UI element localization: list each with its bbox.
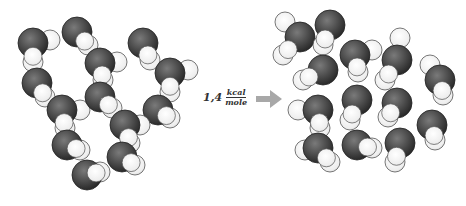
- hydrogen-atom: [317, 149, 335, 167]
- water-molecule: [340, 85, 372, 130]
- energy-unit: kcal mole: [225, 88, 247, 107]
- hydrogen-atom: [316, 30, 334, 48]
- hydrogen-atom: [93, 66, 111, 84]
- hydrogen-atom: [279, 41, 297, 59]
- water-molecule: [295, 133, 340, 172]
- hydrogen-atom: [67, 140, 85, 158]
- hydrogen-atom: [382, 104, 400, 122]
- water-molecule: [72, 160, 110, 190]
- transition-arrow: [256, 90, 282, 108]
- hydrogen-atom: [300, 68, 318, 86]
- hydrogen-atom: [87, 164, 105, 182]
- hydrogen-atom: [34, 84, 52, 102]
- hydrogen-atom: [55, 114, 73, 132]
- water-molecule: [18, 28, 60, 72]
- hydrogen-atom: [161, 77, 179, 95]
- hydrogen-atom: [157, 107, 175, 125]
- hydrogen-atom: [388, 147, 406, 165]
- unit-denominator: mole: [225, 98, 247, 107]
- hydrogen-atom: [359, 138, 377, 156]
- hydrogen-atom: [139, 46, 157, 64]
- water-molecule: [62, 17, 98, 55]
- energy-label: 1,4 kcal mole: [203, 88, 247, 107]
- water-molecule: [385, 128, 415, 172]
- hydrogen-atom: [425, 127, 443, 145]
- hydrogen-atom: [380, 65, 398, 83]
- hydrogen-atom: [343, 105, 361, 123]
- hydrogen-atom: [122, 154, 140, 172]
- water-molecule: [293, 55, 338, 90]
- disordered-water-cluster: [273, 10, 455, 172]
- hydrogen-atom: [76, 32, 94, 50]
- water-molecule: [417, 110, 447, 150]
- hydrogen-atom: [24, 47, 42, 65]
- energy-value: 1,4: [203, 91, 222, 104]
- water-molecule: [375, 28, 412, 90]
- water-molecule: [342, 130, 382, 160]
- hydrogen-atom: [99, 96, 117, 114]
- water-molecule: [378, 88, 412, 127]
- water-molecule: [313, 10, 345, 55]
- water-molecule: [288, 95, 333, 138]
- water-molecule: [273, 12, 315, 65]
- hydrogen-atom: [433, 82, 451, 100]
- water-molecule: [128, 28, 160, 70]
- ordered-water-cluster: [18, 17, 198, 190]
- water-molecule: [52, 130, 90, 160]
- hydrogen-atom: [310, 114, 328, 132]
- hydrogen-atom: [348, 58, 366, 76]
- water-molecule: [420, 55, 455, 105]
